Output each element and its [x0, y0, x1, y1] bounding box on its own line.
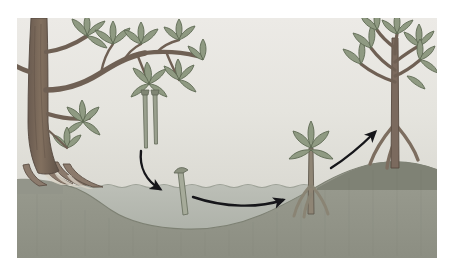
- seedling-stem: [308, 148, 314, 214]
- mangrove-dispersal-illustration: Mangrove propagule dispersal and establi…: [17, 18, 437, 258]
- illustration-canvas: Mangrove propagule dispersal and establi…: [0, 0, 452, 276]
- seabed-label: sediment seabed: [21, 114, 143, 131]
- scene-svg: Mangrove propagule dispersal and establi…: [17, 18, 437, 258]
